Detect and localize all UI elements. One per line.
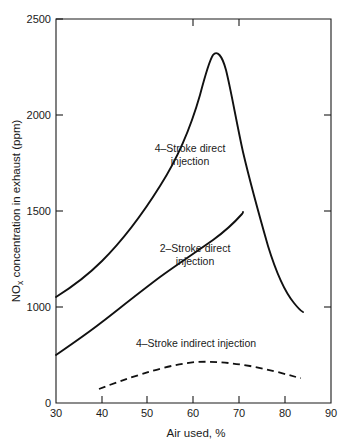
xtick-label-70: 70 — [233, 407, 245, 419]
ytick-label-1000: 1000 — [27, 301, 51, 313]
annotation-4stroke-direct-line1: 4–Stroke direct — [155, 142, 226, 154]
nox-concentration-line-chart: 2500 2000 1500 1000 0 30 40 50 60 70 80 … — [0, 0, 356, 445]
ytick-label-2500: 2500 — [27, 13, 51, 25]
annotation-2stroke-direct: 2–Stroke direct injection — [160, 242, 231, 267]
xtick-label-80: 80 — [279, 407, 291, 419]
annotation-2stroke-direct-line1: 2–Stroke direct — [160, 242, 231, 254]
ytick-label-2000: 2000 — [27, 109, 51, 121]
series-2stroke-direct-curve — [56, 212, 243, 355]
y-axis-title-post: concentration in exhaust (ppm) — [10, 120, 22, 281]
series-4stroke-direct-curve — [56, 53, 303, 312]
xtick-label-30: 30 — [50, 407, 62, 419]
y-axis-title-pre: NO — [10, 285, 22, 302]
annotation-4stroke-indirect-line1: 4–Stroke indirect injection — [136, 337, 256, 349]
xtick-label-60: 60 — [187, 407, 199, 419]
annotation-4stroke-indirect: 4–Stroke indirect injection — [136, 337, 256, 349]
annotation-2stroke-direct-line2: injection — [176, 255, 215, 267]
svg-text:NOx concentration in exhaust (: NOx concentration in exhaust (ppm) — [10, 120, 25, 303]
xtick-label-40: 40 — [96, 407, 108, 419]
annotation-4stroke-direct: 4–Stroke direct injection — [155, 142, 226, 167]
xtick-label-50: 50 — [141, 407, 153, 419]
x-axis-title: Air used, % — [167, 427, 226, 439]
y-axis-title: NOx concentration in exhaust (ppm) — [10, 120, 25, 303]
chart-figure: 2500 2000 1500 1000 0 30 40 50 60 70 80 … — [0, 0, 356, 445]
xtick-label-90: 90 — [325, 407, 337, 419]
ytick-label-1500: 1500 — [27, 205, 51, 217]
annotation-4stroke-direct-line2: injection — [171, 155, 210, 167]
series-4stroke-indirect-curve — [99, 362, 301, 389]
